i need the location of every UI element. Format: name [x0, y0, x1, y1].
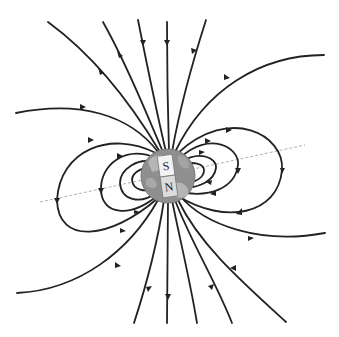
field-line — [180, 196, 325, 237]
arrow-icon — [208, 284, 214, 290]
field-line — [134, 200, 164, 323]
field-line — [175, 55, 324, 152]
arrow-icon — [80, 104, 86, 110]
arrow-icon — [146, 286, 152, 292]
arrow-icon — [248, 236, 254, 241]
field-loop — [57, 144, 158, 232]
arrow-icon — [164, 40, 170, 46]
arrow-icon — [115, 262, 121, 268]
field-line — [172, 20, 206, 152]
field-svg: S N — [0, 0, 339, 337]
field-line — [172, 200, 197, 323]
arrow-icon — [120, 228, 126, 233]
arrow-icon — [117, 51, 123, 58]
field-line — [103, 22, 163, 152]
arrow-icon — [224, 74, 230, 80]
arrow-icon — [54, 198, 60, 204]
arrow-icon — [165, 294, 171, 300]
arrow-icon — [98, 188, 104, 194]
arrow-icon — [140, 40, 146, 46]
magnetic-field-diagram: S N — [0, 0, 339, 337]
arrow-icon — [199, 150, 205, 155]
field-line — [167, 200, 168, 323]
arrow-icon — [88, 137, 94, 143]
field-line — [138, 20, 166, 152]
